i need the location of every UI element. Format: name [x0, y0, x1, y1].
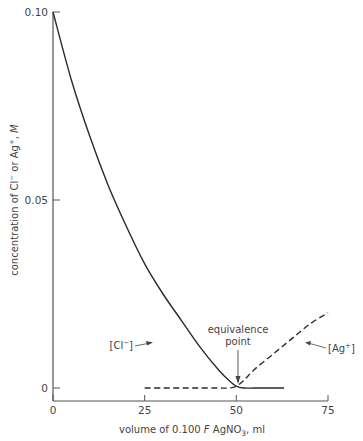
chloride-label-annotation: [Cl−]: [110, 339, 153, 351]
silver-label: [Ag+]: [328, 342, 355, 354]
x-tick-label: 75: [321, 404, 334, 416]
x-axis-title: volume of 0.100 F AgNO3, ml: [119, 424, 265, 438]
equivalence-point-annotation: equivalence point: [208, 324, 269, 384]
y-tick-label: 0.05: [25, 194, 48, 206]
silver-label-annotation: [Ag+]: [305, 341, 355, 354]
arrowhead-icon: [236, 376, 241, 384]
equivalence-label: equivalence: [208, 324, 269, 335]
x-ticks: 0255075: [50, 395, 335, 416]
arrowhead-icon: [146, 341, 153, 346]
arrowhead-icon: [305, 341, 311, 346]
pointer-arrow-icon: [308, 343, 326, 348]
chloride-label: [Cl−]: [110, 339, 134, 351]
y-tick-label: 0: [41, 382, 48, 394]
x-tick-label: 25: [138, 404, 151, 416]
point-label: point: [225, 336, 251, 347]
x-tick-label: 0: [50, 404, 57, 416]
y-ticks: 00.050.10: [25, 6, 60, 394]
y-axis-title: concentration of Cl− or Ag+, M: [8, 124, 20, 276]
x-tick-label: 50: [230, 404, 243, 416]
y-tick-label: 0.10: [25, 6, 48, 18]
titration-chart: 00.050.10 0255075 equivalence point [Cl−…: [0, 0, 363, 441]
